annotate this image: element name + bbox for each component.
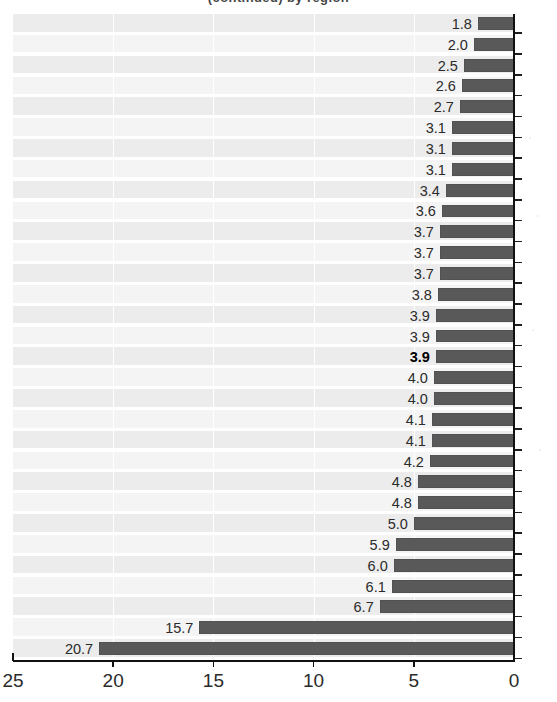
bar — [440, 246, 514, 259]
bar-value-label: 15.7 — [0, 621, 193, 636]
bar-value-label: 6.7 — [0, 600, 374, 615]
bar — [478, 17, 514, 30]
category-axis-tick — [515, 616, 522, 618]
bar-value-label: 1.8 — [0, 17, 472, 32]
bar — [418, 496, 514, 509]
bar — [452, 142, 514, 155]
bar-value-label: 3.7 — [0, 267, 434, 282]
category-axis-tick — [515, 553, 522, 555]
bar — [436, 330, 514, 343]
category-axis-tick — [515, 282, 522, 284]
value-axis-label: 10 — [303, 671, 324, 690]
category-axis-tick — [515, 241, 522, 243]
value-axis-tick — [513, 653, 515, 661]
category-axis-tick — [515, 387, 522, 389]
bar-value-label: 4.8 — [0, 496, 412, 511]
category-axis-tick — [515, 595, 522, 597]
bar — [438, 288, 514, 301]
bar — [462, 79, 514, 92]
category-axis-tick — [515, 428, 522, 430]
cropped-title: (continued) by region — [0, 0, 557, 13]
value-axis-tick — [12, 653, 14, 661]
category-axis-tick — [515, 470, 522, 472]
bar — [199, 621, 514, 634]
bar-value-label: 3.1 — [0, 121, 446, 136]
category-axis-tick — [515, 137, 522, 139]
bar-value-label: 3.8 — [0, 288, 432, 303]
bar — [440, 267, 514, 280]
bar — [434, 371, 514, 384]
bar-value-label: 4.8 — [0, 475, 412, 490]
bar — [418, 475, 514, 488]
category-axis-tick — [515, 324, 522, 326]
bar — [474, 38, 514, 51]
bar — [446, 184, 514, 197]
category-axis-tick — [515, 53, 522, 55]
scan-speckle — [524, 120, 546, 540]
bar-value-label: 4.1 — [0, 413, 426, 428]
category-axis-tick — [515, 574, 522, 576]
bar-value-label: 2.7 — [0, 100, 454, 115]
category-axis-tick — [515, 199, 522, 201]
category-axis-tick — [515, 658, 522, 660]
bar — [392, 580, 514, 593]
bar — [436, 350, 514, 363]
bar — [380, 600, 514, 613]
value-axis-tick — [112, 660, 114, 667]
bar — [464, 59, 514, 72]
category-axis-tick — [515, 262, 522, 264]
bar-chart-figure: (continued) by region 1.82.02.52.62.73.1… — [0, 0, 557, 702]
value-axis-tick — [313, 660, 315, 667]
category-axis-tick — [515, 491, 522, 493]
bar-value-label: 5.9 — [0, 538, 390, 553]
bar-value-label: 3.1 — [0, 142, 446, 157]
category-axis-tick — [515, 157, 522, 159]
bar-value-label: 2.6 — [0, 79, 456, 94]
category-axis-tick — [515, 32, 522, 34]
bar-value-label: 4.2 — [0, 455, 424, 470]
bar-value-label: 6.0 — [0, 559, 388, 574]
category-axis-tick — [515, 95, 522, 97]
category-axis-tick — [515, 512, 522, 514]
bar — [452, 121, 514, 134]
bar — [432, 434, 514, 447]
category-axis-tick — [515, 637, 522, 639]
cropped-title-text: (continued) by region — [0, 0, 557, 4]
bar-value-label: 3.1 — [0, 163, 446, 178]
bar — [442, 205, 514, 218]
bar — [396, 538, 514, 551]
value-axis-label: 25 — [2, 671, 23, 690]
category-axis-line — [513, 14, 515, 661]
bar-value-label: 3.7 — [0, 246, 434, 261]
bar-value-label: 3.9 — [0, 309, 430, 324]
category-axis-tick — [515, 178, 522, 180]
category-axis-tick — [515, 407, 522, 409]
category-axis-tick — [515, 449, 522, 451]
value-axis-label: 5 — [409, 671, 420, 690]
value-axis-tick — [213, 660, 215, 667]
category-axis-tick — [515, 345, 522, 347]
category-axis-tick — [515, 303, 522, 305]
bar-value-label: 3.7 — [0, 225, 434, 240]
bar-value-label: 3.9 — [0, 330, 430, 345]
bar-value-label: 3.9 — [0, 350, 430, 365]
bar — [460, 100, 514, 113]
category-axis-tick — [515, 366, 522, 368]
value-axis-label: 20 — [103, 671, 124, 690]
value-axis-label: 0 — [509, 671, 520, 690]
bar-value-label: 2.0 — [0, 38, 468, 53]
bar — [434, 392, 514, 405]
category-axis-tick — [515, 220, 522, 222]
bar — [440, 225, 514, 238]
bar-value-label: 4.0 — [0, 371, 428, 386]
value-axis-tick — [413, 660, 415, 667]
bar — [436, 309, 514, 322]
bar — [452, 163, 514, 176]
category-axis-tick — [515, 74, 522, 76]
bar-value-label: 3.4 — [0, 184, 440, 199]
category-axis-tick — [515, 116, 522, 118]
bar — [394, 559, 514, 572]
category-axis-tick — [515, 532, 522, 534]
bar — [432, 413, 514, 426]
bar-value-label: 5.0 — [0, 517, 408, 532]
